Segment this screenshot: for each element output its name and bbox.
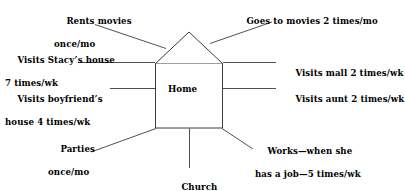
home-node-label: Home [168, 84, 197, 94]
node-label-church-line1: Church [181, 182, 217, 191]
node-label-works-line2: has a job—5 times/wk [255, 169, 361, 180]
node-label-rents-movies-line1: Rents movies [66, 16, 131, 26]
node-label-visits-stacys-house-line1: Visits Stacy’s house [17, 55, 114, 65]
node-label-visits-aunt-line1: Visits aunt 2 times/wk [295, 94, 404, 104]
node-label-parties: Parties once/mo [48, 133, 95, 191]
node-label-visits-boyfriends-house-line1: Visits boyfriend’s [17, 94, 102, 104]
ecomap-diagram: Home Rents movies once/mo Goes to movies… [0, 0, 405, 191]
connector-works [222, 129, 253, 150]
node-label-visits-mall-line1: Visits mall 2 times/wk [295, 68, 403, 78]
home-node-body [156, 64, 223, 129]
home-node-roof [156, 32, 223, 64]
node-label-parties-line2: once/mo [48, 167, 95, 178]
node-label-goes-to-movies-line1: Goes to movies 2 times/mo [246, 16, 378, 26]
node-label-goes-to-movies: Goes to movies 2 times/mo [234, 5, 378, 39]
node-label-visits-aunt: Visits aunt 2 times/wk [283, 83, 404, 117]
node-label-works: Works—when she has a job—5 times/wk [255, 135, 361, 191]
node-label-works-line1: Works—when she [267, 146, 352, 156]
node-label-visits-boyfriends-house-line2: house 4 times/wk [5, 117, 103, 128]
node-label-parties-line1: Parties [60, 144, 95, 154]
node-label-church: Church [169, 171, 217, 191]
